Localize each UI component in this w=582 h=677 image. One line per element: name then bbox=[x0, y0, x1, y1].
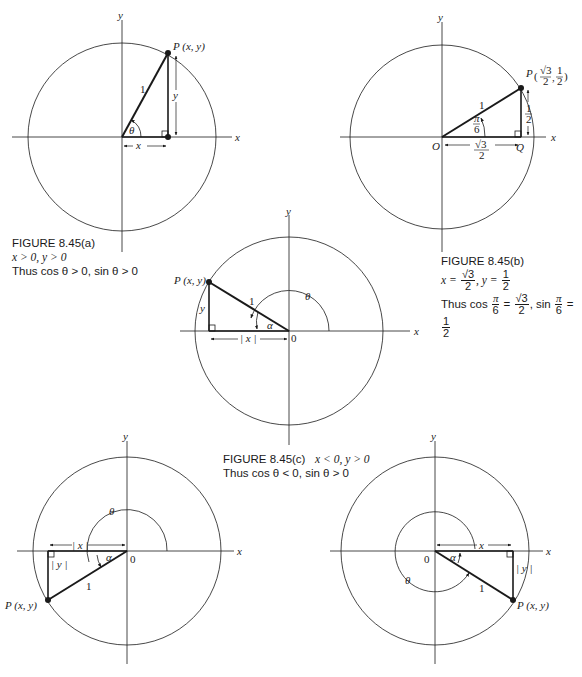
caption-a-conclusion: Thus cos θ > 0, sin θ > 0 bbox=[12, 264, 138, 278]
alpha-arc-d bbox=[97, 555, 101, 567]
origin-label-e: 0 bbox=[424, 553, 430, 565]
theta-label-c: θ bbox=[305, 290, 311, 302]
y-axis-label-c: y bbox=[285, 205, 291, 217]
caption-b-x-value: √32 bbox=[461, 269, 475, 292]
y-axis-label-b: y bbox=[437, 11, 443, 23]
y-length-label-a: y bbox=[172, 89, 178, 101]
alpha-label-d: α bbox=[106, 551, 112, 563]
alpha-arc-c bbox=[256, 312, 258, 329]
right-angle-d bbox=[48, 551, 54, 557]
x-axis-label-e: x bbox=[545, 545, 551, 557]
caption-b-conclusion: Thus cos π6 = √32, sin π6 = 12 bbox=[441, 293, 582, 339]
caption-b-sin: , sin bbox=[530, 298, 551, 310]
x-axis-label-a: x bbox=[234, 131, 240, 143]
svg-text:): ) bbox=[564, 70, 568, 83]
hypotenuse-label-e: 1 bbox=[479, 582, 485, 594]
caption-b-title: FIGURE 8.45(b) bbox=[441, 254, 582, 268]
alpha-label-e: α bbox=[450, 551, 456, 563]
origin-label-d: 0 bbox=[130, 553, 136, 565]
origin-label-b: O bbox=[432, 140, 440, 152]
caption-b-equals-1: = bbox=[504, 298, 511, 310]
vertical-length-label-b: 1 2 bbox=[525, 102, 532, 125]
y-length-label-c: y bbox=[199, 302, 205, 314]
caption-c-title: FIGURE 8.45(c) bbox=[223, 453, 305, 465]
caption-a: FIGURE 8.45(a) x > 0, y > 0 Thus cos θ >… bbox=[12, 236, 138, 278]
right-angle-c bbox=[209, 325, 215, 331]
caption-a-title: FIGURE 8.45(a) bbox=[12, 236, 138, 250]
point-foot-a bbox=[165, 134, 171, 140]
caption-b-cos-value: √32 bbox=[515, 293, 529, 316]
caption-b-y-eq: , y = bbox=[476, 274, 498, 286]
y-length-label-e: | y | bbox=[516, 562, 532, 574]
caption-b: FIGURE 8.45(b) x = √32, y = 12 Thus cos … bbox=[441, 254, 582, 339]
theta-label-d: θ bbox=[109, 505, 115, 517]
angle-arc-b bbox=[481, 118, 485, 137]
y-axis-label-e: y bbox=[430, 430, 436, 442]
caption-b-y-value: 12 bbox=[502, 269, 510, 292]
caption-c: FIGURE 8.45(c) x < 0, y > 0 Thus cos θ <… bbox=[223, 452, 370, 480]
caption-c-condition: x < 0, y > 0 bbox=[315, 453, 369, 465]
point-p-d bbox=[45, 597, 51, 603]
hypotenuse-label-b: 1 bbox=[479, 99, 485, 111]
svg-text:2: 2 bbox=[543, 75, 549, 87]
theta-label-e: θ bbox=[405, 574, 411, 586]
x-length-label-e: x bbox=[478, 539, 484, 551]
x-axis-label-b: x bbox=[550, 131, 556, 143]
point-coords-b: ( √3 2 , 1 2 ) bbox=[534, 64, 568, 87]
svg-text:2: 2 bbox=[526, 113, 532, 125]
point-label-b: P bbox=[525, 67, 533, 79]
hypotenuse-label-a: 1 bbox=[140, 83, 146, 95]
x-length-label-c: | x | bbox=[240, 332, 256, 344]
x-axis-label-c: x bbox=[413, 325, 419, 337]
right-angle-b bbox=[515, 131, 521, 137]
radius-e bbox=[435, 551, 513, 600]
right-angle-e bbox=[507, 551, 513, 557]
figure-b bbox=[340, 22, 546, 252]
svg-text:(: ( bbox=[534, 70, 538, 83]
hypotenuse-label-d: 1 bbox=[86, 580, 92, 592]
point-label-c: P (x, y) bbox=[173, 274, 206, 287]
origin-label-c: 0 bbox=[291, 332, 297, 344]
caption-b-condition: x = √32, y = 12 bbox=[441, 269, 582, 292]
x-length-label-a: x bbox=[135, 139, 141, 151]
caption-b-sin-value: 12 bbox=[442, 316, 450, 339]
x-length-label-d: | x | bbox=[72, 539, 88, 551]
foot-label-b: Q bbox=[516, 141, 524, 153]
caption-b-angle-1: π6 bbox=[492, 293, 500, 316]
y-length-label-d: | y | bbox=[51, 558, 67, 570]
svg-text:2: 2 bbox=[557, 75, 563, 87]
radius-b bbox=[442, 88, 521, 137]
caption-b-equals-2: = bbox=[567, 298, 574, 310]
point-p-e bbox=[510, 597, 516, 603]
angle-label-b: π 6 bbox=[473, 112, 480, 135]
horizontal-length-label-b: √3 2 bbox=[474, 138, 489, 161]
caption-a-condition: x > 0, y > 0 bbox=[12, 250, 138, 264]
point-label-d: P (x, y) bbox=[4, 599, 37, 612]
svg-text:2: 2 bbox=[479, 149, 485, 161]
point-p-c bbox=[206, 279, 212, 285]
x-axis-label-d: x bbox=[236, 545, 242, 557]
caption-b-x-eq: x = bbox=[441, 274, 457, 286]
caption-c-conclusion: Thus cos θ < 0, sin θ > 0 bbox=[223, 466, 370, 480]
figure-a bbox=[12, 20, 232, 252]
caption-b-angle-2: π6 bbox=[555, 293, 563, 316]
theta-arc-c bbox=[251, 290, 329, 331]
caption-b-thus-cos: Thus cos bbox=[441, 298, 488, 310]
theta-label-a: θ bbox=[129, 124, 135, 136]
svg-text:,: , bbox=[552, 71, 555, 83]
y-axis-label-a: y bbox=[117, 9, 123, 21]
point-label-e: P (x, y) bbox=[516, 599, 549, 612]
point-label-a: P (x, y) bbox=[172, 40, 205, 53]
y-axis-label-d: y bbox=[122, 430, 128, 442]
point-p-b bbox=[518, 85, 524, 91]
figure-d bbox=[17, 441, 234, 664]
alpha-arc-e bbox=[458, 553, 460, 563]
point-p-a bbox=[165, 50, 171, 56]
hypotenuse-label-c: 1 bbox=[249, 295, 255, 307]
alpha-label-c: α bbox=[267, 319, 273, 331]
svg-text:6: 6 bbox=[474, 123, 480, 135]
figure-c bbox=[180, 215, 410, 445]
